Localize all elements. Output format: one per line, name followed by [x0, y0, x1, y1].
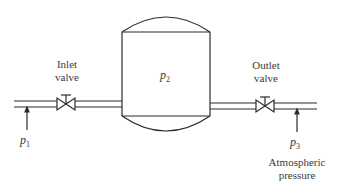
inlet-valve-label-line1: Inlet	[50, 58, 84, 71]
tank-pressure-label: p2	[160, 68, 170, 84]
inlet-valve-label-line2: valve	[50, 71, 84, 84]
tank-bottom-cap	[122, 116, 210, 131]
atmospheric-pressure-note: Atmospheric pressure	[264, 156, 330, 182]
outlet-valve-label-line2: valve	[246, 72, 286, 85]
inlet-pipe	[14, 101, 122, 107]
atmospheric-note-line1: Atmospheric	[264, 156, 330, 169]
tank-top-cap	[122, 17, 210, 32]
outlet-valve-label-line1: Outlet	[246, 59, 286, 72]
outlet-pressure-label: p3	[290, 135, 300, 151]
outlet-valve-label: Outlet valve	[246, 59, 286, 85]
inlet-valve-icon	[57, 95, 75, 110]
inlet-pressure-label: p1	[20, 133, 30, 149]
inlet-pressure-arrow-icon	[25, 107, 29, 130]
atmospheric-note-line2: pressure	[264, 169, 330, 182]
outlet-pressure-arrow-icon	[295, 109, 299, 132]
inlet-valve-label: Inlet valve	[50, 58, 84, 84]
outlet-valve-icon	[256, 97, 274, 112]
outlet-pipe	[210, 103, 317, 109]
